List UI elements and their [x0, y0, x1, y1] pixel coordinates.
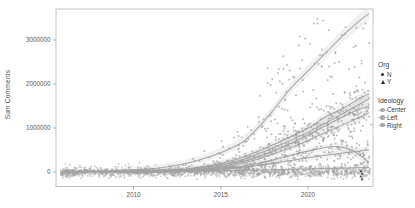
- data-point: [297, 172, 299, 174]
- data-point: [184, 175, 186, 177]
- data-point: [340, 166, 342, 168]
- data-point: [305, 175, 307, 177]
- data-point: [286, 64, 288, 66]
- data-point: [106, 172, 108, 174]
- data-point: [295, 130, 297, 132]
- data-point: [294, 122, 296, 124]
- data-point: [355, 97, 357, 99]
- smooth-point-key-icon: [378, 115, 387, 121]
- data-point: [149, 175, 151, 177]
- data-point: [317, 133, 319, 135]
- data-point: [354, 176, 356, 178]
- data-point: [64, 167, 66, 169]
- data-point: [337, 121, 339, 123]
- data-point: [338, 129, 340, 131]
- data-point: [368, 156, 370, 158]
- data-point: [312, 135, 314, 137]
- data-point: [365, 22, 367, 24]
- data-point: [62, 168, 64, 170]
- data-point: [291, 119, 293, 121]
- data-point: [83, 169, 85, 171]
- data-point: [277, 123, 279, 125]
- data-point: [274, 119, 276, 121]
- data-point: [66, 166, 68, 168]
- data-point: [238, 135, 240, 137]
- data-point: [322, 172, 324, 174]
- data-point: [249, 163, 251, 165]
- data-point: [62, 170, 64, 172]
- data-point: [332, 175, 334, 177]
- data-point: [345, 26, 347, 28]
- data-point: [356, 147, 358, 149]
- data-point: [115, 168, 117, 170]
- data-point: [345, 109, 347, 111]
- data-point: [346, 144, 348, 146]
- data-point: [246, 140, 248, 142]
- legend-item-ideology-left: Left: [378, 114, 406, 122]
- data-point: [353, 173, 355, 175]
- data-point: [256, 175, 258, 177]
- data-point: [318, 142, 320, 144]
- data-point: [345, 142, 347, 144]
- data-point: [179, 176, 181, 178]
- data-point: [299, 35, 301, 37]
- data-point: [317, 63, 319, 65]
- data-point: [352, 170, 354, 172]
- data-point: [250, 129, 252, 131]
- data-point: [304, 137, 306, 139]
- legend: Org N Y Ideology Center Left Right: [378, 61, 406, 129]
- data-point: [254, 137, 256, 139]
- data-point: [355, 155, 357, 157]
- data-point: [283, 125, 285, 127]
- data-point: [252, 177, 254, 179]
- data-point: [124, 172, 126, 174]
- data-point: [320, 156, 322, 158]
- data-point: [303, 145, 305, 147]
- data-point: [114, 166, 116, 168]
- data-point: [304, 38, 306, 40]
- data-point: [138, 176, 140, 178]
- data-point: [318, 109, 320, 111]
- data-point: [331, 178, 333, 180]
- data-point: [261, 171, 263, 173]
- data-point: [356, 142, 358, 144]
- data-point: [323, 151, 325, 153]
- data-point: [351, 177, 353, 179]
- legend-item-org-n: N: [378, 71, 406, 79]
- data-point: [316, 170, 318, 172]
- data-point: [275, 139, 277, 141]
- data-point: [327, 171, 329, 173]
- data-point: [340, 176, 342, 178]
- data-point: [251, 172, 253, 174]
- data-point: [364, 92, 366, 94]
- data-point: [230, 171, 232, 173]
- data-point: [281, 154, 283, 156]
- data-point: [140, 177, 142, 179]
- data-point: [349, 92, 351, 94]
- data-point: [271, 78, 273, 80]
- data-point: [352, 137, 354, 139]
- data-point: [175, 167, 177, 169]
- data-point: [309, 122, 311, 124]
- y-axis-tick-label: 1000000: [26, 124, 51, 131]
- data-point: [239, 151, 241, 153]
- data-point: [203, 150, 205, 152]
- data-point: [303, 156, 305, 158]
- y-axis-tick-label: 2000000: [26, 80, 51, 87]
- data-point: [211, 173, 213, 175]
- data-point: [182, 173, 184, 175]
- data-point: [217, 174, 219, 176]
- data-point: [333, 126, 335, 128]
- data-point: [229, 173, 231, 175]
- data-point: [275, 92, 277, 94]
- data-point: [69, 164, 71, 166]
- data-point: [265, 177, 267, 179]
- data-point: [328, 118, 330, 120]
- data-point: [277, 72, 279, 74]
- data-point: [330, 126, 332, 128]
- data-point: [325, 166, 327, 168]
- data-point: [155, 177, 157, 179]
- data-point: [316, 106, 318, 108]
- panel-inner: [60, 0, 372, 180]
- data-point: [290, 175, 292, 177]
